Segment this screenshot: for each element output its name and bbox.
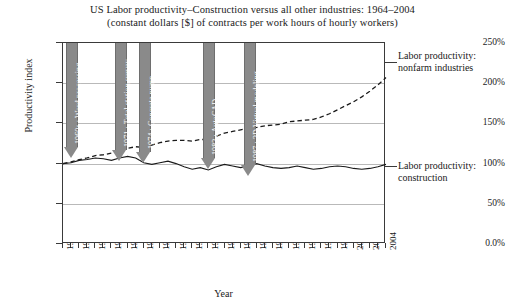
annotation-arrow: 1974 : Concrete pump (136, 43, 151, 163)
x-axis-tick-label: 2004 (389, 232, 398, 250)
y-axis-tick-label: 200% (461, 78, 505, 87)
y-axis-tick-label: 150% (461, 118, 505, 127)
x-axis-title: Year (62, 288, 385, 299)
annotation-label: 1960s : Word processing (75, 63, 83, 144)
annotation-label: 1987 : 3D Virtual modeling (253, 71, 261, 162)
arrow-head (64, 147, 78, 158)
chart-title: US Labor productivity–Construction versu… (0, 3, 505, 29)
y-axis-tick-label: 50% (461, 199, 505, 208)
arrow-head (136, 152, 150, 163)
annotation-arrow: 1982 : AutoCAD (201, 43, 216, 169)
series-label-nonfarm-line-2: nonfarm industries (398, 62, 510, 74)
series-label-nonfarm-line-1: Labor productivity: (398, 50, 510, 62)
arrow-head (241, 165, 255, 176)
annotation-label: 1982 : AutoCAD (212, 99, 220, 155)
arrow-head (201, 158, 215, 169)
annotation-arrow: 1971 : Total station survey (112, 43, 127, 161)
y-axis-tick-label: 250% (461, 38, 505, 47)
leader-line-construction (385, 166, 397, 167)
series-label-nonfarm-industries: Labor productivity: nonfarm industries (398, 50, 510, 73)
y-axis-title: Productivity index (23, 16, 34, 176)
series-label-construction-line-2: construction (398, 172, 510, 184)
y-axis-tick-label: 0.0% (461, 239, 505, 248)
series-label-construction-line-1: Labor productivity: (398, 160, 510, 172)
annotation-label: 1974 : Concrete pump (148, 76, 156, 149)
series-label-construction: Labor productivity: construction (398, 160, 510, 183)
annotation-arrow: 1987 : 3D Virtual modeling (241, 43, 256, 176)
annotation-label: 1971 : Total station survey (124, 59, 132, 147)
chart-title-line-2: (constant dollars [$] of contracts per w… (0, 16, 505, 29)
annotation-arrow: 1960s : Word processing (64, 43, 79, 158)
plot-area: 1960s : Word processing1971 : Total stat… (62, 42, 385, 243)
chart-title-line-1: US Labor productivity–Construction versu… (0, 3, 505, 16)
arrow-head (112, 150, 126, 161)
leader-line-nonfarm (385, 62, 397, 63)
